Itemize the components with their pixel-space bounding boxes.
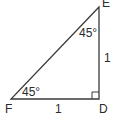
- side-label-fd: 1: [55, 103, 62, 115]
- side-label-de: 1: [104, 52, 111, 64]
- triangle-diagram: [0, 0, 115, 115]
- right-angle-marker: [92, 92, 99, 99]
- angle-label-f: 45°: [22, 86, 40, 98]
- vertex-label-d: D: [99, 103, 108, 115]
- angle-label-e: 45°: [79, 27, 97, 39]
- vertex-label-f: F: [5, 103, 12, 115]
- vertex-label-e: E: [102, 0, 110, 9]
